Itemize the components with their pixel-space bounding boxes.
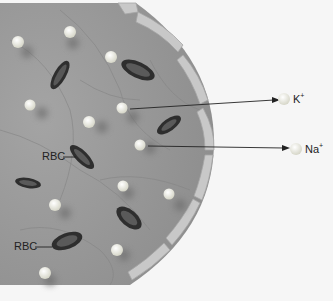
sodium-label: Na+ [305, 142, 323, 155]
rbc-label: RBC [14, 240, 37, 252]
vessel-cross-section-diagram: K+ Na+ RBC RBC [0, 0, 333, 301]
rbc-label: RBC [42, 150, 65, 162]
sodium-arrowhead-icon [282, 145, 290, 151]
sodium-ion-icon [290, 143, 302, 155]
potassium-ion-icon [278, 93, 290, 105]
potassium-label: K+ [293, 92, 304, 105]
